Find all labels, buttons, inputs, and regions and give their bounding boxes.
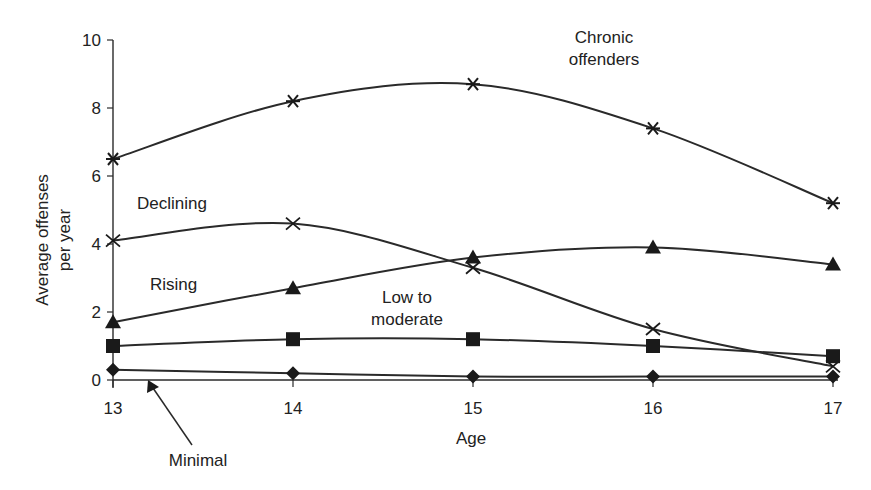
line-chart: 02468101314151617AgeAverage offensesper … (0, 0, 871, 490)
x-tick-label: 17 (824, 399, 843, 418)
y-tick-label: 0 (92, 371, 101, 390)
square-marker-icon (466, 332, 480, 346)
series-label-chronic-offenders: Chronicoffenders (569, 28, 640, 69)
chart-series (105, 78, 841, 383)
series-low-to-moderate (106, 332, 840, 363)
y-tick-label: 2 (92, 303, 101, 322)
square-marker-icon (826, 349, 840, 363)
arrow-head-icon (147, 380, 159, 393)
diamond-marker-icon (646, 370, 660, 384)
series-label-low-to-moderate: Low tomoderate (371, 288, 443, 329)
y-tick-label: 6 (92, 167, 101, 186)
diamond-marker-icon (466, 370, 480, 384)
y-tick-label: 10 (82, 31, 101, 50)
diamond-marker-icon (106, 363, 120, 377)
series-label-declining: Declining (137, 194, 207, 213)
series-rising (105, 239, 841, 328)
diamond-marker-icon (286, 366, 300, 380)
x-axis-title: Age (456, 429, 486, 448)
x-tick-label: 15 (464, 399, 483, 418)
square-marker-icon (286, 332, 300, 346)
x-tick-label: 14 (284, 399, 303, 418)
square-marker-icon (106, 339, 120, 353)
square-marker-icon (646, 339, 660, 353)
minimal-arrow-line (153, 388, 192, 445)
series-chronic-offenders (106, 78, 840, 209)
series-label-rising: Rising (150, 275, 197, 294)
series-line (113, 83, 833, 203)
series-label-minimal: Minimal (169, 451, 228, 470)
y-axis-title: Average offensesper year (33, 174, 74, 306)
y-tick-label: 4 (92, 235, 101, 254)
y-tick-label: 8 (92, 99, 101, 118)
x-tick-label: 16 (644, 399, 663, 418)
x-tick-label: 13 (104, 399, 123, 418)
